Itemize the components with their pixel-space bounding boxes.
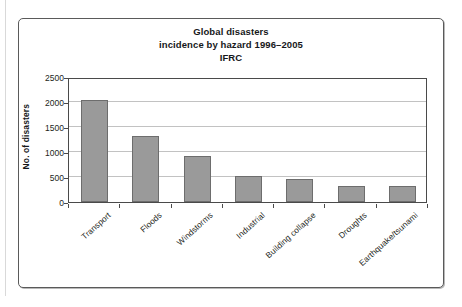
- x-tick-mark: [171, 204, 172, 208]
- x-tick-mark: [222, 204, 223, 208]
- y-tick-label: 2500: [36, 73, 64, 83]
- y-tick-label: 0: [36, 198, 64, 208]
- y-tick-label: 2000: [36, 98, 64, 108]
- x-tick-mark: [376, 204, 377, 208]
- bar-floods: [132, 136, 159, 202]
- y-tick-label: 1000: [36, 148, 64, 158]
- y-tick-label: 500: [36, 173, 64, 183]
- gridline: [69, 151, 426, 152]
- bar-transport: [81, 100, 108, 202]
- page-footer-smudge: [40, 296, 440, 304]
- bar-building-collapse: [286, 179, 313, 203]
- x-tick-mark: [68, 204, 69, 208]
- y-tick-label: 1500: [36, 123, 64, 133]
- plot-area: [68, 78, 427, 203]
- page-edge-rule: [5, 0, 6, 296]
- x-tick-mark: [273, 204, 274, 208]
- x-tick-mark: [324, 204, 325, 208]
- chart-title-line-3: IFRC: [19, 51, 443, 64]
- bar-windstorms: [184, 156, 211, 203]
- bar-droughts: [338, 186, 365, 202]
- bar-earthquake-tsunami: [389, 186, 416, 202]
- bar-industrial: [235, 176, 262, 202]
- chart-title-line-2: incidence by hazard 1996–2005: [19, 38, 443, 51]
- y-axis-ticks: 05001000150020002500: [34, 78, 64, 203]
- x-tick-mark: [427, 204, 428, 208]
- gridline: [69, 126, 426, 127]
- chart-title-line-1: Global disasters: [19, 25, 443, 38]
- gridline: [69, 101, 426, 102]
- x-tick-mark: [119, 204, 120, 208]
- chart-title: Global disasters incidence by hazard 199…: [19, 25, 443, 64]
- y-axis-title: No. of disasters: [21, 104, 35, 169]
